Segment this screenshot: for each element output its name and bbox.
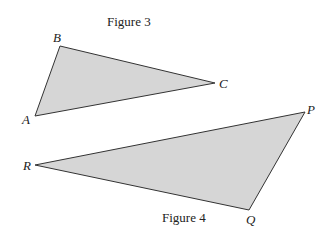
diagram: Figure 3 B C A P R Q Figure 4 <box>0 0 334 230</box>
triangle-pqr <box>35 112 305 210</box>
vertex-p-label: P <box>306 102 315 117</box>
vertex-q-label: Q <box>246 212 256 227</box>
vertex-c-label: C <box>219 76 228 91</box>
figure-3-caption: Figure 3 <box>107 14 151 29</box>
vertex-a-label: A <box>21 112 30 127</box>
vertex-b-label: B <box>53 30 61 45</box>
figure-4-caption: Figure 4 <box>162 210 206 225</box>
vertex-r-label: R <box>22 158 31 173</box>
triangle-abc <box>35 46 215 116</box>
